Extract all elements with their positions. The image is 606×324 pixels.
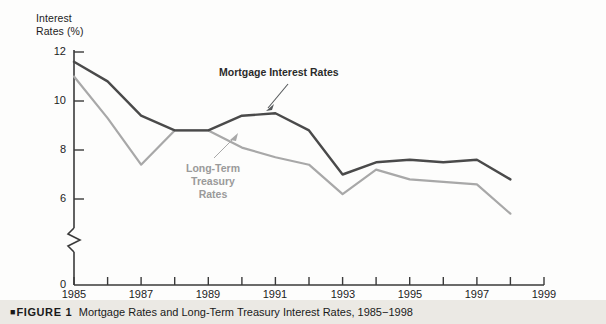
figure-caption: ■FIGURE1Mortgage Rates and Long-Term Tre… bbox=[0, 306, 413, 318]
caption-title-text: Mortgage Rates and Long-Term Treasury In… bbox=[79, 306, 413, 318]
x-tick-label-1985: 1985 bbox=[51, 288, 97, 300]
x-tick-label-1997: 1997 bbox=[454, 288, 500, 300]
x-tick-label-1989: 1989 bbox=[185, 288, 231, 300]
treasury-series-label: Long-Term Treasury Rates bbox=[176, 162, 250, 201]
figure-container: InterestRates (%) bbox=[0, 0, 606, 324]
y-tick-label-6: 6 bbox=[44, 192, 66, 204]
y-tick-label-10: 10 bbox=[44, 94, 66, 106]
caption-figure-word: FIGURE bbox=[16, 306, 61, 318]
chart-svg bbox=[0, 0, 606, 300]
y-tick-label-12: 12 bbox=[44, 45, 66, 57]
y-tick-label-8: 8 bbox=[44, 143, 66, 155]
caption-figure-number: 1 bbox=[66, 306, 72, 318]
caption-square-marker-icon: ■ bbox=[10, 307, 15, 317]
series-line-treasury bbox=[74, 77, 510, 214]
mortgage-series-label: Mortgage Interest Rates bbox=[219, 66, 339, 79]
y-axis-break-zigzag bbox=[68, 228, 80, 252]
x-tick-label-1991: 1991 bbox=[252, 288, 298, 300]
treasury-annotation-arrow bbox=[214, 133, 238, 158]
x-tick-label-1999: 1999 bbox=[521, 288, 567, 300]
x-tick-label-1995: 1995 bbox=[387, 288, 433, 300]
mortgage-annotation-arrow bbox=[266, 84, 288, 111]
x-tick-label-1993: 1993 bbox=[320, 288, 366, 300]
x-tick-label-1987: 1987 bbox=[118, 288, 164, 300]
chart-plot-area: InterestRates (%) bbox=[0, 0, 606, 300]
figure-caption-bar: ■FIGURE1Mortgage Rates and Long-Term Tre… bbox=[0, 300, 606, 324]
